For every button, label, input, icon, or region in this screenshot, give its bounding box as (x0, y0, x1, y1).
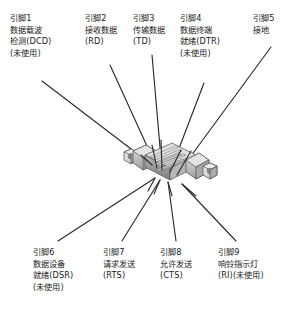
pin-label-pin1-line-1: 数据载波 (10, 25, 51, 37)
leader-lines (42, 47, 271, 241)
pin-label-pin7-line-2: (RTS) (103, 270, 135, 282)
leader-line-pin7 (122, 180, 160, 241)
pin-label-pin2-line-1: 接收数据 (85, 25, 117, 37)
pin-label-pin4-line-3: (未使用) (180, 48, 220, 60)
pin-label-pin4: 引脚4 数据终端 就绪(DTR) (未使用) (180, 13, 220, 59)
pin-label-pin3-line-1: 传输数据 (133, 25, 165, 37)
pin-label-pin7: 引脚7 请求发送 (RTS) (103, 247, 135, 282)
pin-label-pin9-line-1: 响铃指示灯 (218, 259, 264, 271)
pinout-diagram: 引脚1 数据载波 检测(DCD) (未使用) 引脚2 接收数据 (RD) 引脚3… (0, 0, 300, 319)
pin-label-pin6-line-2: 就绪(DSR) (33, 270, 73, 282)
db9-connector (124, 143, 217, 180)
pin-label-pin6: 引脚6 数据设备 就绪(DSR) (未使用) (33, 247, 73, 293)
pin-label-pin2-line-2: (RD) (85, 36, 117, 48)
pin-label-pin9-line-0: 引脚9 (218, 247, 264, 259)
pin-label-pin4-line-0: 引脚4 (180, 13, 220, 25)
pin-label-pin7-line-1: 请求发送 (103, 259, 135, 271)
leader-line-pin9 (182, 184, 236, 241)
pin-label-pin4-line-2: 就绪(DTR) (180, 36, 220, 48)
pin-label-pin9: 引脚9 响铃指示灯 (RI)(未使用) (218, 247, 264, 282)
pin-label-pin8-line-1: 允许发送 (160, 259, 192, 271)
pin-label-pin8: 引脚8 允许发送 (CTS) (160, 247, 192, 282)
pin-label-pin7-line-0: 引脚7 (103, 247, 135, 259)
pin-label-pin8-line-2: (CTS) (160, 270, 192, 282)
pin-label-pin4-line-1: 数据终端 (180, 25, 220, 37)
pin-label-pin1-line-0: 引脚1 (10, 13, 51, 25)
pin-label-pin2-line-0: 引脚2 (85, 13, 117, 25)
pin-label-pin2: 引脚2 接收数据 (RD) (85, 13, 117, 48)
pin-label-pin5-line-0: 引脚5 (253, 13, 275, 25)
pin-label-pin1-line-3: (未使用) (10, 48, 51, 60)
pin-label-pin5: 引脚5 接地 (253, 13, 275, 36)
leader-line-pin8 (168, 182, 176, 241)
pin-label-pin1-line-2: 检测(DCD) (10, 36, 51, 48)
pin-label-pin6-line-0: 引脚6 (33, 247, 73, 259)
pin-label-pin3-line-2: (TD) (133, 36, 165, 48)
pin-label-pin9-line-2: (RI)(未使用) (218, 270, 264, 282)
leader-line-pin6 (58, 178, 155, 241)
pin-label-pin1: 引脚1 数据载波 检测(DCD) (未使用) (10, 13, 51, 59)
pin-label-pin3-line-0: 引脚3 (133, 13, 165, 25)
pin-label-pin3: 引脚3 传输数据 (TD) (133, 13, 165, 48)
pin-label-pin8-line-0: 引脚8 (160, 247, 192, 259)
screw-post-right (203, 163, 217, 179)
pin-label-pin5-line-1: 接地 (253, 25, 275, 37)
pin-label-pin6-line-1: 数据设备 (33, 259, 73, 271)
pin-label-pin6-line-3: (未使用) (33, 282, 73, 294)
